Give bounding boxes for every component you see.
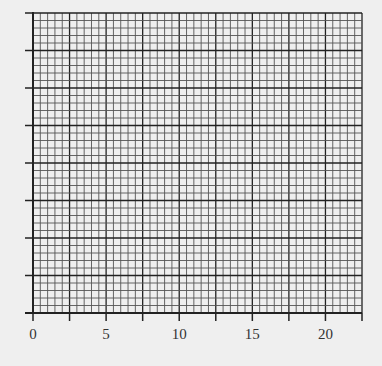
graph-paper-chart: 05101520: [0, 0, 382, 366]
x-tick-label: 10: [172, 326, 187, 342]
x-tick-label: 20: [318, 326, 333, 342]
x-tick-label: 5: [102, 326, 110, 342]
x-tick-label: 15: [245, 326, 260, 342]
x-tick-label: 0: [29, 326, 37, 342]
x-axis-tick-labels: 05101520: [29, 326, 333, 342]
grid-lines: [33, 13, 362, 313]
